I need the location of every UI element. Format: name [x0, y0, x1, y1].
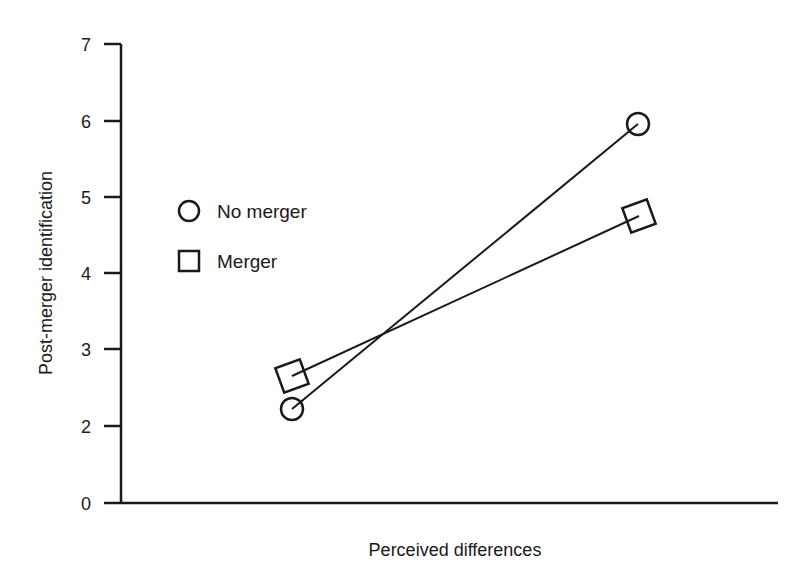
y-tick-label-4: 4	[81, 264, 91, 284]
y-axis: 7 6 5 4 3 2 0	[81, 35, 121, 514]
series-merger	[292, 216, 639, 376]
legend: No merger Merger	[179, 201, 307, 272]
y-tick-label-5: 5	[81, 188, 91, 208]
legend-item-merger: Merger	[179, 251, 278, 272]
y-tick-label-0: 0	[81, 494, 91, 514]
y-tick-label-7: 7	[81, 35, 91, 55]
y-tick-label-2: 2	[81, 417, 91, 437]
series-no-merger	[292, 124, 638, 409]
y-tick-label-6: 6	[81, 112, 91, 132]
legend-label-merger: Merger	[217, 251, 278, 272]
legend-item-no-merger: No merger	[179, 201, 307, 222]
x-axis-label: Perceived differences	[369, 540, 542, 560]
circle-marker-icon	[179, 201, 199, 221]
y-tick-label-3: 3	[81, 340, 91, 360]
y-axis-label: Post-merger identification	[36, 171, 56, 375]
chart-canvas: 7 6 5 4 3 2 0 Post-merger identification…	[0, 0, 809, 580]
legend-label-no-merger: No merger	[217, 201, 307, 222]
square-marker-icon	[179, 251, 199, 271]
